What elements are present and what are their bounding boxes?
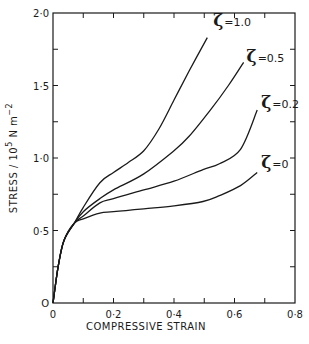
x-tick-label: 0·2 (106, 309, 122, 320)
y-axis-title-unit: N m (8, 116, 19, 142)
zeta-symbol: ζ (261, 152, 271, 172)
data-curves (53, 38, 257, 303)
y-axis-title-exp2: −2 (5, 103, 14, 116)
y-axis-title-group: STRESS / 105 N m−2 (5, 103, 19, 213)
zeta-symbol: ζ (213, 10, 223, 30)
curve-zeta-0 (53, 173, 257, 304)
curve-label: ζ=0.2 (261, 92, 299, 112)
curve-label: ζ=0 (261, 152, 288, 172)
curve-zeta-1.0 (53, 38, 207, 303)
stress-strain-chart: 00·20·40·60·8 O0·51·01·52·0 ζ=1.0ζ=0.5ζ=… (0, 0, 309, 344)
y-tick-label: 2·0 (33, 8, 49, 19)
zeta-value: =0.5 (258, 52, 285, 65)
y-tick-labels: O0·51·01·52·0 (33, 8, 49, 309)
curve-label: ζ=0.5 (247, 46, 285, 66)
y-tick-label: 1·0 (33, 153, 49, 164)
zeta-value: =0.2 (272, 98, 299, 111)
zeta-value: =1.0 (224, 16, 251, 29)
x-tick-label: 0·8 (287, 309, 303, 320)
y-tick-label: O (41, 298, 49, 309)
y-tick-label: 1·5 (33, 81, 49, 92)
curve-zeta-0.5 (53, 62, 244, 303)
x-tick-labels: 00·20·40·60·8 (50, 309, 303, 320)
zeta-symbol: ζ (261, 92, 271, 112)
x-tick-label: 0·6 (227, 309, 243, 320)
curve-labels: ζ=1.0ζ=0.5ζ=0.2ζ=0 (213, 10, 299, 172)
zeta-value: =0 (272, 158, 288, 171)
x-tick-label: 0 (50, 309, 56, 320)
y-tick-label: 0·5 (33, 226, 49, 237)
zeta-symbol: ζ (247, 46, 257, 66)
x-axis-title: COMPRESSIVE STRAIN (86, 321, 206, 332)
y-axis-title: STRESS / 105 N m−2 (5, 103, 19, 213)
y-axis-title-main: STRESS / 10 (8, 147, 19, 213)
x-tick-label: 0·4 (166, 309, 182, 320)
